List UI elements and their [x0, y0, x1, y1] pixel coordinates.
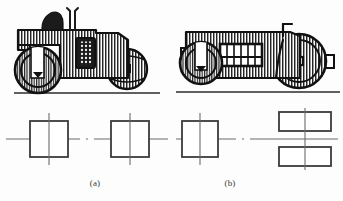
control-levers-a [67, 8, 78, 30]
figure-container: (a) (b) [0, 0, 343, 201]
cab-window-b [220, 44, 262, 66]
caption-b: (b) [205, 178, 255, 188]
radiator-grille-a [76, 38, 95, 68]
front-drum-a [15, 44, 61, 93]
operator-seat-a [42, 12, 63, 30]
machine-a-group [14, 8, 160, 93]
machine-b-group [176, 24, 340, 92]
caption-a: (a) [70, 178, 120, 188]
schematic-b-group [176, 108, 338, 170]
schematic-b-view-left [182, 113, 218, 165]
front-drum-b [180, 40, 222, 84]
machine-illustrations [0, 0, 343, 201]
schematic-a-view-left [30, 113, 68, 165]
schematic-a-view-right [111, 113, 149, 165]
schematic-a-group [6, 113, 168, 165]
